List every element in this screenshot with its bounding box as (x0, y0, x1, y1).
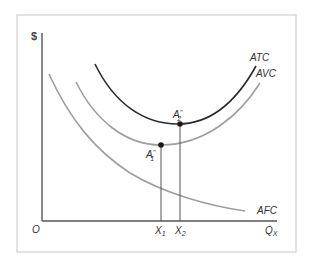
chart-frame (17, 15, 296, 252)
atc-label: ATC (249, 52, 270, 63)
origin-label: O (32, 224, 40, 235)
y-axis-label: $ (31, 30, 37, 42)
point-a2 (177, 121, 183, 127)
afc-label: AFC (256, 205, 278, 216)
cost-curves-chart: $ O ATC AVC AFC A''2 A''1 X1 X2 QX (0, 0, 312, 266)
point-a1 (158, 142, 164, 148)
avc-label: AVC (255, 68, 277, 79)
